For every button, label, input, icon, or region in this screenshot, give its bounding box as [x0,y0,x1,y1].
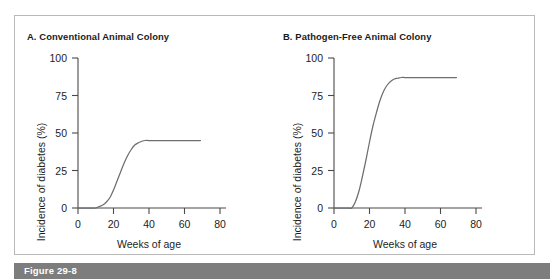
panel-a-plot: Incidence of diabetes (%) 0 25 50 75 100 [15,42,273,252]
panel-b-y-label-0: 0 [317,202,323,214]
panel-b-y-label-100: 100 [305,52,323,64]
panel-b: B. Pathogen-Free Animal Colony Incidence… [273,16,534,254]
panel-b-x-label-80: 80 [470,218,482,230]
panel-a-x-label-0: 0 [75,218,81,230]
figure-caption-text: Figure 29-8 [24,265,77,276]
panel-a-y-label-0: 0 [61,202,67,214]
panel-b-y-axis-title: Incidence of diabetes (%) [291,123,303,241]
panel-b-y-label-50: 50 [311,127,323,139]
figure-frame: A. Conventional Animal Colony Incidence … [14,15,535,255]
panel-a-y-label-75: 75 [55,90,67,102]
panel-a-data-curve [78,140,200,208]
panel-b-x-label-60: 60 [435,218,447,230]
panel-a-y-label-50: 50 [55,127,67,139]
panel-b-x-label-0: 0 [331,218,337,230]
panel-a-title: A. Conventional Animal Colony [27,31,169,42]
panel-b-plot: Incidence of diabetes (%) 0 25 50 75 100 [273,42,534,252]
panel-b-x-label-40: 40 [399,218,411,230]
panel-a-y-label-100: 100 [49,52,67,64]
panel-a-y-label-25: 25 [55,165,67,177]
panel-b-y-label-25: 25 [311,165,323,177]
panel-a: A. Conventional Animal Colony Incidence … [15,16,273,254]
panel-b-data-curve [334,77,456,208]
figure-caption-bar: Figure 29-8 [14,263,550,279]
panel-a-x-axis-title: Weeks of age [117,238,181,250]
figure-root: A. Conventional Animal Colony Incidence … [0,0,550,279]
panel-a-x-label-20: 20 [108,218,120,230]
panel-a-x-label-40: 40 [143,218,155,230]
panel-a-x-label-80: 80 [214,218,226,230]
panel-b-x-label-20: 20 [364,218,376,230]
panel-b-y-label-75: 75 [311,90,323,102]
panel-b-title: B. Pathogen-Free Animal Colony [283,31,432,42]
panel-a-y-axis-title: Incidence of diabetes (%) [35,123,47,241]
panel-a-x-label-60: 60 [179,218,191,230]
panel-b-x-axis-title: Weeks of age [373,238,437,250]
